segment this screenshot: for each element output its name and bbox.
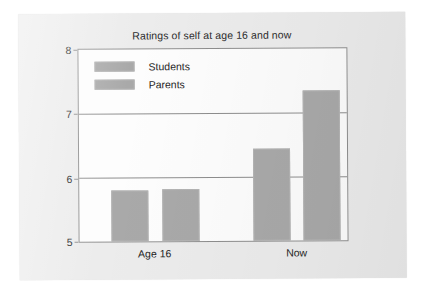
plot-area: Students Parents <box>77 47 348 243</box>
legend-item-students: Students <box>94 57 190 76</box>
bar-now-students <box>253 149 291 241</box>
legend-swatch-students <box>94 61 134 71</box>
legend-swatch-parents <box>95 79 135 89</box>
y-axis-tick-label-7: 7 <box>48 108 72 120</box>
bar-age16-parents <box>162 189 199 241</box>
bar-chart-figure: Ratings of self at age 16 and now 8 7 6 … <box>18 12 407 280</box>
chart-title: Ratings of self at age 16 and now <box>18 28 405 42</box>
legend-label-parents: Parents <box>149 78 185 90</box>
legend-item-parents: Parents <box>95 75 191 94</box>
y-axis-tick-label-8: 8 <box>47 44 71 56</box>
legend-label-students: Students <box>148 60 190 72</box>
bar-age16-students <box>111 190 148 241</box>
bar-now-parents <box>303 90 341 240</box>
y-axis-tick-label-6: 6 <box>48 173 72 185</box>
scanned-page: Ratings of self at age 16 and now 8 7 6 … <box>18 12 407 280</box>
y-axis-tick-label-5: 5 <box>49 236 73 248</box>
x-axis-tick-label-now: Now <box>286 246 307 258</box>
chart-legend: Students Parents <box>94 57 190 94</box>
x-axis-tick-label-age-16: Age 16 <box>138 247 171 259</box>
